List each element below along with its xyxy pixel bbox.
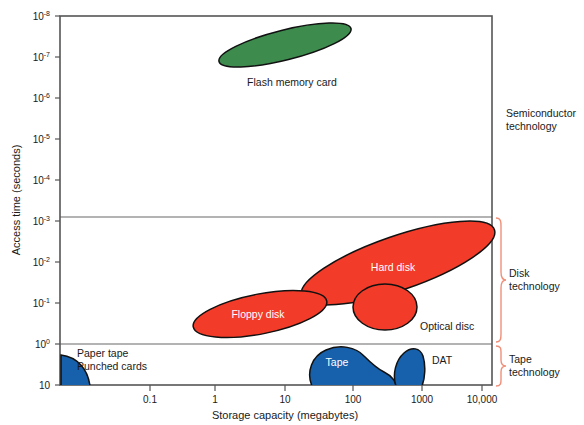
x-tick-label-1: 1	[212, 394, 218, 405]
tape-technology-brace	[496, 346, 506, 386]
x-tick-label-0.1: 0.1	[143, 394, 157, 405]
hard-disk-label: Hard disk	[371, 261, 416, 273]
annotation-tape-technology: Tape technology	[496, 346, 561, 386]
punched-cards-label: Punched cards	[77, 360, 147, 372]
y-tick-label-10: 10	[39, 380, 51, 391]
x-tick-label-1000: 1000	[411, 394, 434, 405]
x-tick-label-100: 100	[345, 394, 362, 405]
y-tick-label-1e-8: 10-8	[33, 10, 50, 22]
annotation-semiconductor-technology: Semiconductor technology	[506, 107, 577, 132]
tape-technology-label-line1: Tape	[509, 353, 532, 365]
y-tick-label-1e-5: 10-5	[33, 133, 50, 145]
y-tick-label-1e-2: 10-2	[33, 256, 50, 268]
x-axis-tick-labels: 0.1 1 10 100 1000 10,000	[143, 394, 498, 405]
optical-disc-label: Optical disc	[420, 320, 474, 332]
y-axis-tick-labels: 10-8 10-7 10-6 10-5 10-4 10-3 10-2 10-1 …	[33, 10, 51, 391]
x-tick-label-10000: 10,000	[467, 394, 498, 405]
semiconductor-technology-label-line2: technology	[506, 120, 558, 132]
paper-tape-label: Paper tape	[77, 347, 129, 359]
disk-technology-brace	[496, 218, 506, 342]
storage-technology-chart: 10-8 10-7 10-6 10-5 10-4 10-3 10-2 10-1 …	[0, 0, 584, 425]
chart-canvas: 10-8 10-7 10-6 10-5 10-4 10-3 10-2 10-1 …	[0, 0, 584, 425]
disk-technology-label-line1: Disk	[509, 267, 530, 279]
x-tick-label-10: 10	[279, 394, 291, 405]
floppy-disk-label: Floppy disk	[231, 308, 285, 320]
y-tick-label-1e0: 100	[35, 338, 50, 350]
semiconductor-technology-label-line1: Semiconductor	[506, 107, 577, 119]
y-tick-label-1e-1: 10-1	[33, 297, 50, 309]
y-tick-label-1e-6: 10-6	[33, 92, 50, 104]
x-axis-ticks	[150, 385, 482, 391]
flash-memory-card-label: Flash memory card	[247, 76, 337, 88]
tape-technology-label-line2: technology	[509, 366, 561, 378]
y-tick-label-1e-4: 10-4	[33, 174, 50, 186]
optical-disc-blob[interactable]	[353, 284, 417, 330]
y-axis-title: Access time (seconds)	[10, 145, 22, 256]
disk-technology-label-line2: technology	[509, 280, 561, 292]
y-tick-label-1e-7: 10-7	[33, 51, 50, 63]
tape-label: Tape	[326, 356, 349, 368]
annotation-disk-technology: Disk technology	[496, 218, 561, 342]
y-tick-label-1e-3: 10-3	[33, 215, 50, 227]
x-axis-title: Storage capacity (megabytes)	[212, 409, 358, 421]
dat-label: DAT	[432, 354, 453, 366]
